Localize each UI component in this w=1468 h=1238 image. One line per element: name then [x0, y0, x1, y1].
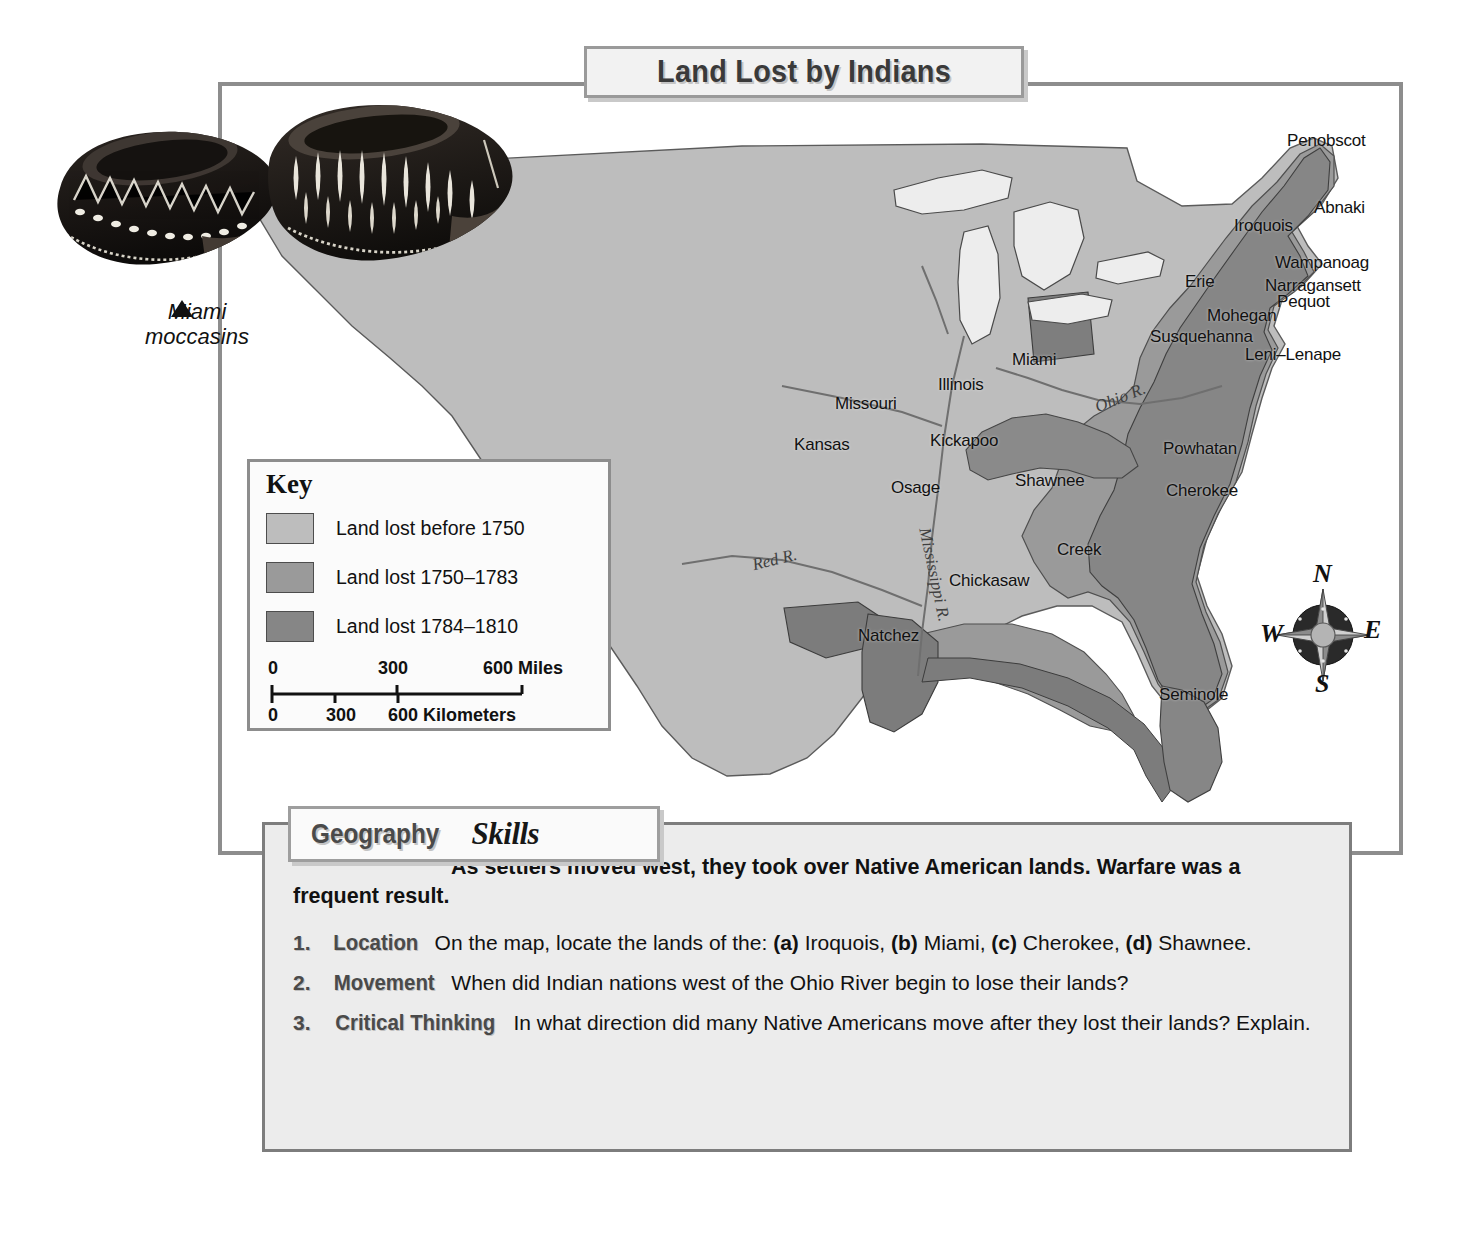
- question-item-1: 1. LocationOn the map, locate the lands …: [293, 929, 1329, 958]
- question-text-3: In what direction did many Native Americ…: [513, 1011, 1310, 1034]
- geography-skills-panel: As settlers moved west, they took over N…: [262, 822, 1352, 1152]
- page-title: Land Lost by Indians: [657, 54, 951, 90]
- map-label-creek: Creek: [1057, 540, 1101, 560]
- question-item-3: 3. Critical ThinkingIn what direction di…: [293, 1009, 1329, 1038]
- map-label-mohegan: Mohegan: [1207, 306, 1277, 326]
- key-label-before-1750: Land lost before 1750: [336, 517, 525, 540]
- compass-west: W: [1260, 619, 1283, 649]
- map-label-miami: Miami: [1012, 350, 1056, 370]
- geography-skills-tab: Geography Skills: [288, 806, 660, 862]
- map-label-susquehanna: Susquehanna: [1150, 327, 1253, 347]
- scale-miles-300: 300: [378, 658, 408, 679]
- scale-km-0: 0: [268, 705, 278, 726]
- moccasin-right: [268, 97, 513, 260]
- map-label-natchez: Natchez: [858, 626, 919, 646]
- map-label-seminole: Seminole: [1159, 685, 1228, 705]
- key-swatch-1750-1783: [266, 562, 314, 593]
- key-swatch-1784-1810: [266, 611, 314, 642]
- question-number-3: 3.: [293, 1009, 311, 1038]
- compass-north: N: [1313, 559, 1332, 589]
- map-label-iroquois: Iroquois: [1234, 216, 1293, 236]
- compass-south: S: [1315, 669, 1329, 699]
- key-entry-before-1750: Land lost before 1750: [266, 510, 525, 546]
- key-heading: Key: [266, 469, 313, 500]
- key-swatch-before-1750: [266, 513, 314, 544]
- key-entry-1784-1810: Land lost 1784–1810: [266, 608, 518, 644]
- map-label-cherokee: Cherokee: [1166, 481, 1238, 501]
- map-label-shawnee: Shawnee: [1015, 471, 1085, 491]
- map-label-chickasaw: Chickasaw: [949, 571, 1029, 591]
- map-label-erie: Erie: [1185, 272, 1214, 292]
- map-label-kansas: Kansas: [794, 435, 850, 455]
- caption-line-2: moccasins: [112, 325, 282, 350]
- geography-skills-word-1: Geography: [311, 819, 439, 850]
- moccasins-photo: [52, 96, 552, 306]
- question-number-1: 1.: [293, 929, 311, 958]
- region-gulf-dark: [922, 658, 1174, 802]
- map-label-wampanoag: Wampanoag: [1275, 253, 1369, 273]
- caption-line-1: Miami: [112, 300, 282, 325]
- map-label-penobscot: Penobscot: [1287, 131, 1366, 151]
- scale-miles-600: 600 Miles: [483, 658, 563, 679]
- moccasins-caption: Miami moccasins: [112, 300, 282, 349]
- key-label-1750-1783: Land lost 1750–1783: [336, 566, 518, 589]
- scale-miles-0: 0: [268, 658, 278, 679]
- map-label-missouri: Missouri: [835, 394, 897, 414]
- question-text-1: On the map, locate the lands of the: (a)…: [435, 931, 1252, 954]
- key-entry-1750-1783: Land lost 1750–1783: [266, 559, 518, 595]
- question-category-2: Movement: [334, 969, 435, 998]
- question-item-2: 2. MovementWhen did Indian nations west …: [293, 969, 1329, 998]
- map-label-illinois: Illinois: [938, 375, 984, 395]
- moccasin-left: [57, 123, 277, 266]
- question-text-2: When did Indian nations west of the Ohio…: [451, 971, 1128, 994]
- map-key-box: Key Land lost before 1750 Land lost 1750…: [247, 459, 611, 731]
- geography-skills-questions: 1. LocationOn the map, locate the lands …: [293, 929, 1329, 1050]
- map-label-powhatan: Powhatan: [1163, 439, 1237, 459]
- question-category-1: Location: [333, 929, 418, 958]
- compass-east: E: [1364, 615, 1381, 645]
- map-title-banner: Land Lost by Indians: [584, 46, 1024, 98]
- scale-bar-graphic: [268, 682, 548, 706]
- map-label-pequot: Pequot: [1277, 292, 1330, 312]
- map-scale-bar: 0 300 600 Miles 0 300 600 Kilometers: [268, 658, 590, 728]
- map-label-kickapoo: Kickapoo: [930, 431, 998, 451]
- map-label-leni-lenape: Leni–Lenape: [1245, 345, 1341, 365]
- map-label-osage: Osage: [891, 478, 940, 498]
- key-label-1784-1810: Land lost 1784–1810: [336, 615, 518, 638]
- scale-km-600: 600 Kilometers: [388, 705, 516, 726]
- question-category-3: Critical Thinking: [335, 1009, 495, 1038]
- map-label-abnaki: Abnaki: [1314, 198, 1365, 218]
- compass-rose: N E S W: [1258, 563, 1388, 703]
- scale-km-300: 300: [326, 705, 356, 726]
- geography-skills-word-2: Skills: [472, 816, 540, 852]
- intro-text: As settlers moved west, they took over N…: [293, 855, 1240, 908]
- question-number-2: 2.: [293, 969, 311, 998]
